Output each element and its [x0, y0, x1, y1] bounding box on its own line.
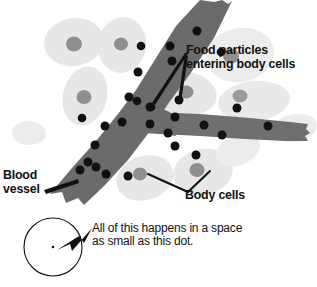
scale-arrow: [57, 228, 92, 251]
food-particle: [76, 166, 85, 175]
food-particle: [233, 104, 242, 113]
food-particle: [78, 114, 87, 123]
blood-vessel-label-line1: Blood: [3, 168, 37, 182]
food-particle: [218, 131, 227, 140]
body-cell: [11, 120, 47, 146]
food-particle: [124, 172, 133, 181]
food-particle: [84, 158, 93, 167]
body-cells-label: Body cells: [185, 189, 245, 203]
food-particle: [125, 93, 134, 102]
cell-nucleus: [133, 168, 147, 181]
cell-nucleus: [77, 90, 92, 104]
food-particle: [134, 68, 143, 77]
scale-dot: [52, 246, 55, 249]
food-particle: [164, 129, 173, 138]
food-particle: [146, 120, 155, 129]
food-particle: [118, 118, 127, 127]
food-particle: [102, 170, 111, 179]
food-particle: [171, 142, 180, 151]
food-particle: [137, 42, 146, 51]
food-particle: [168, 57, 177, 66]
cell-nucleus: [233, 90, 248, 103]
food-particle: [92, 163, 101, 172]
food-particle: [166, 42, 175, 51]
cell-nucleus: [190, 163, 205, 177]
food-particle: [133, 97, 142, 106]
scale-note-label: All of this happens in a space as small …: [92, 222, 242, 249]
scale-illustration: [24, 218, 92, 276]
food-particles-label-line2: entering body cells: [186, 57, 295, 71]
food-particle: [200, 121, 209, 130]
food-particles-label: Food particles entering body cells: [186, 44, 295, 72]
food-particle: [264, 122, 273, 131]
cell-nucleus: [66, 37, 82, 52]
blood-vessel-label-line2: vessel: [3, 182, 40, 196]
food-particle: [91, 141, 100, 150]
blood-vessel-label: Blood vessel: [3, 169, 40, 197]
food-particle: [101, 122, 110, 131]
food-particle: [193, 27, 202, 36]
food-particle: [192, 151, 201, 160]
diagram-canvas: Food particles entering body cells Blood…: [0, 0, 317, 287]
food-particle: [171, 113, 180, 122]
cell-nucleus: [114, 38, 128, 51]
scale-note-line2: as small as this dot.: [92, 234, 193, 248]
scale-note-line1: All of this happens in a space: [92, 221, 242, 235]
food-particles-label-line1: Food particles: [186, 43, 268, 57]
